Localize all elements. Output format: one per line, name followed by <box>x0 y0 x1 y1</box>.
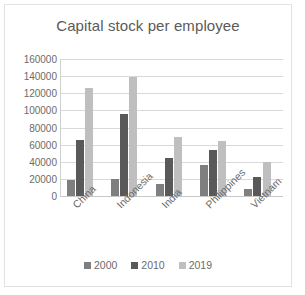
bar-group <box>61 59 105 196</box>
bar <box>200 165 208 196</box>
bar <box>85 88 93 196</box>
value-axis-tick-label: 160000 <box>7 54 57 65</box>
legend-swatch-icon <box>179 262 186 269</box>
legend-item[interactable]: 2019 <box>179 259 212 271</box>
legend-swatch-icon <box>131 262 138 269</box>
plot-area <box>61 59 283 196</box>
bar <box>67 180 75 196</box>
bar <box>244 189 252 196</box>
bar <box>120 114 128 196</box>
value-axis-tick-label: 60000 <box>7 139 57 150</box>
value-axis-tick-label: 140000 <box>7 71 57 82</box>
value-axis-tick-label: 20000 <box>7 173 57 184</box>
value-axis-tick-label: 0 <box>7 191 57 202</box>
legend-item-label: 2010 <box>141 259 164 271</box>
legend-item[interactable]: 2010 <box>131 259 164 271</box>
bar <box>156 184 164 196</box>
value-axis-tick-label: 100000 <box>7 105 57 116</box>
legend-item-label: 2000 <box>94 259 117 271</box>
value-axis-tick-label: 80000 <box>7 122 57 133</box>
legend-item-label: 2019 <box>189 259 212 271</box>
legend-item[interactable]: 2000 <box>84 259 117 271</box>
chart-container: Capital stock per employee 1600001400001… <box>4 4 292 287</box>
bar-group <box>150 59 194 196</box>
legend-swatch-icon <box>84 262 91 269</box>
value-axis-tick-label: 40000 <box>7 156 57 167</box>
chart-legend: 200020102019 <box>5 259 291 271</box>
category-axis-labels: ChinaIndonesiaIndiaPhilippinesVietnam <box>61 196 283 256</box>
value-axis-tick-label: 120000 <box>7 88 57 99</box>
value-axis-labels: 1600001400001200001000008000060000400002… <box>5 5 57 295</box>
bar <box>111 179 119 196</box>
